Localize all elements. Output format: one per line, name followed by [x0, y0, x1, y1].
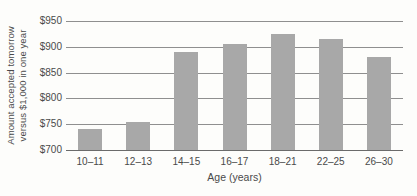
y-tick-label-750: $750	[0, 118, 62, 130]
y-axis-title-line-1: Amount accepted tomorrow	[5, 11, 17, 161]
x-tick-label-14–15: 14–15	[162, 156, 210, 168]
y-tick-label-950: $950	[0, 15, 62, 27]
y-tick-label-850: $850	[0, 67, 62, 79]
bar-12–13	[126, 122, 150, 150]
y-tick-label-900: $900	[0, 41, 62, 53]
x-tick-label-18–21: 18–21	[259, 156, 307, 168]
y-tick-label-800: $800	[0, 92, 62, 104]
bar-26–30	[367, 57, 391, 150]
bar-18–21	[271, 34, 295, 150]
plot-area	[66, 21, 403, 151]
bar-22–25	[319, 39, 343, 150]
y-axis-title: Amount accepted tomorrow versus $1,000 i…	[5, 11, 28, 161]
bar-16–17	[223, 44, 247, 150]
bar-chart-figure: Amount accepted tomorrow versus $1,000 i…	[0, 0, 417, 196]
x-tick-label-12–13: 12–13	[114, 156, 162, 168]
y-axis-title-line-2: versus $1,000 in one year	[16, 11, 28, 161]
gridline-950	[66, 21, 403, 22]
bar-10–11	[78, 129, 102, 150]
x-tick-label-26–30: 26–30	[355, 156, 403, 168]
x-tick-label-22–25: 22–25	[307, 156, 355, 168]
bar-14–15	[174, 52, 198, 150]
x-tick-label-10–11: 10–11	[66, 156, 114, 168]
x-axis-title: Age (years)	[66, 171, 403, 183]
x-tick-label-16–17: 16–17	[210, 156, 258, 168]
y-tick-label-700: $700	[0, 144, 62, 156]
